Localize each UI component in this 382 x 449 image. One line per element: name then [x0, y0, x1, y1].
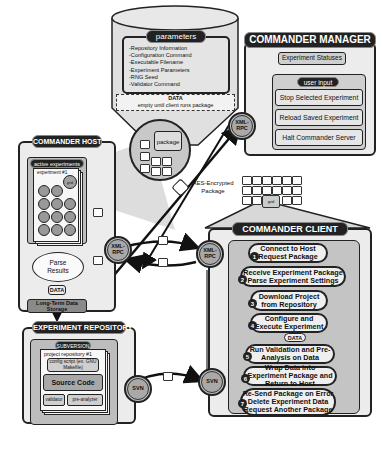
commander-client-title: COMMANDER CLIENT: [232, 222, 348, 236]
grid-node-icon: [64, 211, 76, 223]
package-block-icon: [162, 167, 172, 176]
experiment-repository-title: EXPERIMENT REPOSITORY: [32, 321, 126, 334]
data-placeholder: DATA empty until client runs package: [116, 94, 235, 111]
host-data-label: DATA: [50, 287, 64, 293]
package-block-icon: [162, 157, 172, 166]
host-xml-rpc-node: XML-RPC: [104, 236, 132, 264]
grid-machine-icon: [262, 186, 272, 195]
step-7: Re-Send Package on Error Delete Experime…: [240, 388, 336, 416]
step-2: Receive Experiment Package Parse Experim…: [240, 266, 346, 287]
config-script: config script (ex. GNU Makefile): [47, 358, 99, 372]
step-7-label: Re-Send Package on Error Delete Experime…: [242, 390, 334, 414]
param-item: -Experiment Parameters: [129, 67, 192, 74]
package-block-icon: [140, 152, 150, 161]
grid-node-icon: [38, 185, 50, 197]
active-experiments-title: active experiments: [30, 159, 84, 168]
source-code: Source Code: [43, 374, 103, 391]
grid-machine-icon: [282, 196, 292, 205]
stop-selected-experiment-button[interactable]: Stop Selected Experiment: [275, 89, 363, 106]
step-1-number: 1: [250, 252, 259, 261]
parse-results-cloud: Parse Results: [32, 252, 84, 282]
parameters-panel: parameters -Repository Information -Conf…: [122, 36, 230, 94]
step-6-number: 6: [241, 374, 250, 383]
param-item: -Configuration Command: [129, 52, 192, 59]
package-icon: [93, 256, 103, 265]
grid-machine-icon: [242, 176, 252, 185]
package-label: package: [157, 139, 180, 145]
source-code-label: Source Code: [51, 379, 94, 386]
param-item: -Validator Command: [129, 81, 192, 88]
grid-label: grid: [268, 199, 275, 204]
step-1-label: Connect to Host Request Package: [250, 245, 326, 261]
project-repository-label: project repository #1: [44, 351, 92, 357]
grid-machine-icon: [292, 176, 302, 185]
aes-label: AES-Encrypted Package: [188, 180, 238, 195]
client-xml-rpc-node: XML-RPC: [196, 240, 224, 268]
grid-selected-machine: grid: [262, 195, 280, 208]
host-grid-node: grid: [63, 175, 77, 189]
data-note: empty until client runs package: [117, 102, 234, 109]
step-6: Wrap Data into Experiment Package and Re…: [243, 366, 337, 386]
client-svn-node: SVN: [198, 368, 226, 396]
commander-manager-title: COMMANDER MANAGER: [244, 32, 376, 48]
client-svn-label: SVN: [201, 371, 223, 393]
grid-node-icon: [51, 185, 63, 197]
grid-machine-icon: [252, 186, 262, 195]
grid-machine-icon: [282, 176, 292, 185]
grid-node-icon: [51, 198, 63, 210]
step-5: Run Validation and Pre-Analysis on Data: [245, 344, 335, 364]
package-icon: [93, 208, 103, 217]
parse-results-label: Parse Results: [43, 259, 73, 275]
parameters-title: parameters: [146, 30, 206, 43]
validator: validator: [43, 394, 65, 406]
step-5-number: 5: [243, 352, 252, 361]
client-data-label: DATA: [288, 335, 302, 341]
step-4-label: Configure and Execute Experiment: [252, 315, 326, 331]
param-item: -RNG Seed: [129, 74, 192, 81]
step-3-number: 3: [248, 299, 257, 308]
pre-analyzer: pre-analyzer: [67, 394, 103, 406]
grid-node-icon: [64, 224, 76, 236]
client-data-tag: DATA: [284, 333, 306, 342]
step-5-label: Run Validation and Pre-Analysis on Data: [247, 346, 333, 362]
commander-manager: COMMANDER MANAGER Experiment Statuses us…: [244, 42, 376, 156]
config-script-label: config script (ex. GNU Makefile): [50, 359, 97, 370]
package-block-icon: [140, 140, 150, 149]
pre-analyzer-label: pre-analyzer: [72, 397, 97, 402]
param-item: -Executable Filename: [129, 59, 192, 66]
step-6-label: Wrap Data into Experiment Package and Re…: [245, 364, 335, 388]
grid-node-icon: [51, 224, 63, 236]
grid-machine-icon: [242, 196, 252, 205]
step-3: Download Project from Repository: [250, 290, 328, 311]
parameters-list: -Repository Information -Configuration C…: [129, 45, 192, 88]
package-label-box: package: [154, 131, 182, 151]
long-term-storage-label: Long-Term Data Storage: [36, 300, 78, 312]
outgoing-package-icon: [158, 236, 168, 245]
grid-machine-icon: [272, 176, 282, 185]
step-2-label: Receive Experiment Package Parse Experim…: [242, 269, 344, 285]
commander-host-title: COMMANDER HOST: [32, 135, 102, 148]
reload-saved-experiment-button[interactable]: Reload Saved Experiment: [275, 109, 363, 126]
returning-package-icon: [158, 258, 168, 267]
grid-node-icon: [38, 211, 50, 223]
step-3-label: Download Project from Repository: [252, 293, 326, 309]
package-block-icon: [151, 157, 161, 166]
step-1: Connect to Host Request Package: [248, 243, 328, 263]
halt-commander-server-button[interactable]: Halt Commander Server: [275, 129, 363, 146]
grid-machine-icon: [242, 186, 252, 195]
repo-svn-package-icon: [163, 372, 173, 381]
grid-machine-icon: [292, 196, 302, 205]
client-xml-rpc-label: XML-RPC: [199, 243, 221, 265]
grid-machine-icon: [252, 196, 262, 205]
grid-machine-icon: [262, 176, 272, 185]
package-block-icon: [140, 164, 150, 173]
manager-xml-rpc-node: XML-RPC: [228, 112, 256, 140]
grid-machine-icon: [282, 186, 292, 195]
param-item: -Repository Information: [129, 45, 192, 52]
repository-svn-label: SVN: [127, 378, 149, 400]
grid-node-icon: [38, 224, 50, 236]
step-4: Configure and Execute Experiment: [250, 313, 328, 333]
package-block-icon: [151, 167, 161, 176]
long-term-storage: Long-Term Data Storage: [27, 299, 87, 313]
host-xml-rpc-label: XML-RPC: [107, 239, 129, 261]
